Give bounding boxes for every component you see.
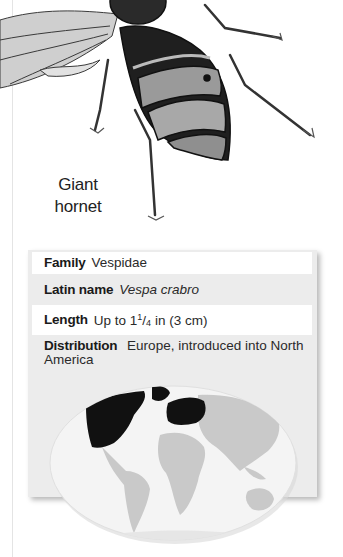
species-label: Giant hornet — [40, 174, 116, 218]
distribution-map — [48, 385, 298, 545]
fact-row-family: Family Vespidae — [32, 252, 312, 274]
wing-icon — [0, 11, 118, 88]
fact-value-length: Up to 11/4 in (3 cm) — [94, 308, 208, 332]
length-prefix: Up to 1 — [94, 313, 138, 328]
abdomen — [120, 26, 230, 160]
fact-key-latin-name: Latin name — [44, 281, 113, 299]
fact-row-latin-name: Latin name Vespa crabro — [32, 274, 312, 305]
species-label-line1: Giant — [40, 174, 116, 196]
length-frac-numerator: 1 — [137, 312, 142, 322]
fact-value-latin-name: Vespa crabro — [119, 281, 199, 299]
fact-key-distribution: Distribution — [44, 338, 117, 353]
length-suffix: in (3 cm) — [151, 313, 207, 328]
fact-row-distribution: Distribution Europe, introduced into Nor… — [32, 336, 312, 380]
fact-key-length: Length — [44, 311, 88, 329]
fact-row-length: Length Up to 11/4 in (3 cm) — [32, 305, 312, 335]
fact-value-family: Vespidae — [92, 254, 148, 272]
fact-key-family: Family — [44, 254, 86, 272]
species-label-line2: hornet — [40, 196, 116, 218]
